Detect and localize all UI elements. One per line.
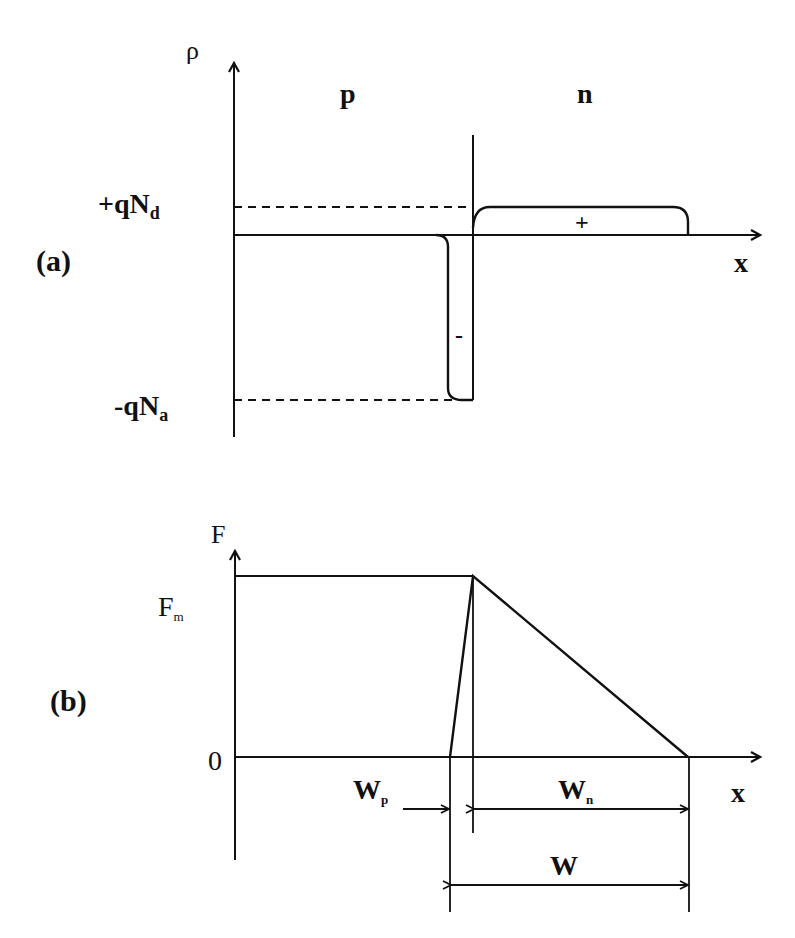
diagram-canvas bbox=[0, 0, 795, 938]
wp-sub: p bbox=[381, 792, 388, 807]
x-axis-a-label: x bbox=[734, 249, 748, 277]
minus-qna-main: -qN bbox=[114, 390, 159, 421]
w-total-label: W bbox=[550, 852, 578, 880]
x-axis-b-label: x bbox=[731, 779, 745, 807]
plus-qnd-main: +qN bbox=[98, 188, 150, 219]
p-region-label: p bbox=[340, 80, 356, 108]
wn-label: Wn bbox=[558, 776, 593, 806]
wn-main: W bbox=[558, 774, 586, 805]
negative-charge-sign: - bbox=[455, 323, 463, 347]
wp-label: Wp bbox=[353, 776, 388, 806]
p-side-charge-block bbox=[436, 235, 473, 400]
rho-axis-label: ρ bbox=[186, 38, 199, 64]
panel-b-plot bbox=[235, 551, 760, 912]
plus-qnd-sub: d bbox=[150, 203, 160, 223]
fm-sub: m bbox=[174, 609, 184, 624]
n-region-label: n bbox=[577, 80, 593, 108]
wp-main: W bbox=[353, 774, 381, 805]
fm-main: F bbox=[158, 591, 174, 622]
fm-label: Fm bbox=[158, 593, 184, 623]
plus-qnd-label: +qNd bbox=[98, 190, 160, 222]
minus-qna-sub: a bbox=[159, 405, 168, 425]
f-axis-label: F bbox=[211, 522, 225, 548]
panel-a-plot bbox=[234, 63, 760, 437]
panel-b-label: (b) bbox=[50, 686, 87, 716]
positive-charge-sign: + bbox=[575, 210, 589, 234]
minus-qna-label: -qNa bbox=[114, 392, 168, 424]
wn-sub: n bbox=[586, 792, 593, 807]
field-profile bbox=[450, 576, 688, 757]
panel-a-label: (a) bbox=[36, 246, 71, 276]
zero-label: 0 bbox=[208, 747, 222, 775]
